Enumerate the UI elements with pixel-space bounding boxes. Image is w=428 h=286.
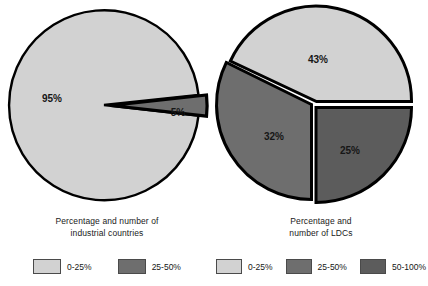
caption-industrial-countries: Percentage and number of industrial coun… [0, 216, 214, 239]
legend-swatch-25-50-percent [286, 259, 312, 274]
caption-line-1: Percentage and number of [0, 216, 214, 228]
legend-swatch-25-50-percent [118, 259, 146, 274]
legend-item: 25-50% [286, 259, 347, 274]
legend-item: 0-25% [216, 259, 273, 274]
legend-label: 25-50% [318, 262, 347, 272]
pie-label-25-percent: 25% [340, 145, 360, 156]
legend-label: 0-25% [248, 262, 273, 272]
legend-industrial-countries: 0-25% 25-50% [0, 259, 214, 274]
legend-label: 25-50% [152, 262, 181, 272]
pie-slice-50-100-percent [316, 108, 412, 203]
pie-chart-figure: 95% 5% 43% 25% 32% Percentage and number… [0, 0, 428, 286]
legend-swatch-50-100-percent [360, 259, 386, 274]
legend-ldcs: 0-25% 25-50% 50-100% [214, 259, 428, 274]
caption-line-1: Percentage and [214, 216, 428, 228]
legend-item: 25-50% [118, 259, 181, 274]
legend-label: 50-100% [392, 262, 426, 272]
caption-ldcs: Percentage and number of LDCs [214, 216, 428, 239]
caption-line-2: industrial countries [0, 228, 214, 240]
legend-item: 0-25% [33, 259, 92, 274]
pie-label-95-percent: 95% [42, 93, 62, 104]
pie-label-32-percent: 32% [264, 131, 284, 142]
pie-label-43-percent: 43% [308, 54, 328, 65]
legend-item: 50-100% [360, 259, 426, 274]
legend-swatch-0-25-percent [33, 259, 61, 274]
caption-line-2: number of LDCs [214, 228, 428, 240]
pie-label-5-percent: 5% [171, 107, 186, 118]
pie-chart-industrial-countries: 95% 5% [0, 0, 214, 214]
pie-chart-ldcs: 43% 25% 32% [214, 0, 428, 214]
legend-swatch-0-25-percent [216, 259, 242, 274]
legend-label: 0-25% [67, 262, 92, 272]
